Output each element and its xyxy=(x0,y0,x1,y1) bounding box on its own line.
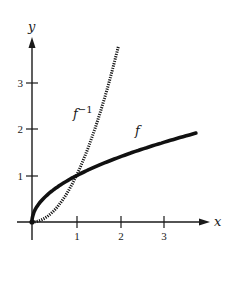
x-tick-label-3: 3 xyxy=(161,230,167,242)
x-axis-label: x xyxy=(214,214,222,229)
y-tick-label-2: 2 xyxy=(18,123,24,135)
y-tick-label-1: 1 xyxy=(18,170,24,182)
x-axis-arrow-icon xyxy=(199,219,210,226)
f-curve xyxy=(32,133,196,222)
x-tick-label-1: 1 xyxy=(74,230,80,242)
y-axis-arrow-icon xyxy=(29,37,36,48)
chart: 1 2 3 1 2 3 x y f f−1 xyxy=(0,0,229,290)
y-tick-label-3: 3 xyxy=(18,77,24,89)
f-inverse-label-sup: −1 xyxy=(78,104,93,115)
origin-point xyxy=(29,219,34,224)
y-axis-label: y xyxy=(27,19,36,34)
f-inverse-label: f−1 xyxy=(72,104,93,121)
f-label: f xyxy=(134,123,142,138)
x-tick-label-2: 2 xyxy=(118,230,124,242)
